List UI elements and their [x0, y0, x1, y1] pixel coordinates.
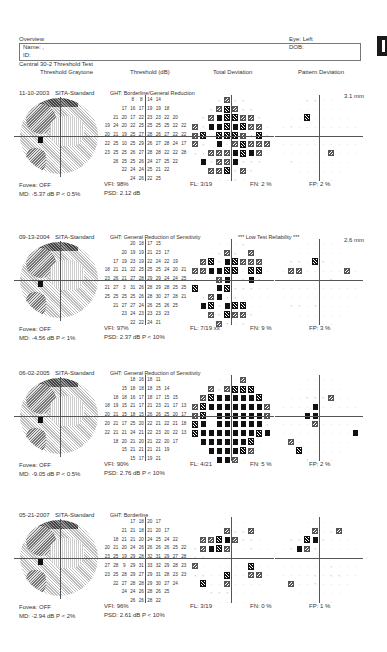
threshold-cell: 15 [163, 394, 172, 403]
probability-symbol-icon [335, 571, 343, 580]
empty-cell [295, 319, 303, 328]
probability-symbol-icon [223, 319, 231, 328]
probability-symbol-icon [303, 544, 311, 553]
threshold-cell [180, 597, 189, 606]
probability-symbol-icon [207, 166, 215, 175]
probability-symbol-icon [239, 302, 247, 311]
threshold-cell: 22 [154, 597, 163, 606]
probability-symbol-icon [287, 580, 295, 589]
probability-symbol-icon [343, 293, 351, 302]
probability-symbol-icon [319, 96, 327, 105]
empty-cell [191, 536, 199, 545]
probability-symbol-icon [239, 580, 247, 589]
patient-id: ID: [23, 52, 31, 59]
probability-symbol-icon [239, 293, 247, 302]
probability-symbol-icon [263, 544, 271, 553]
empty-cell [191, 385, 199, 394]
probability-symbol-icon [295, 420, 303, 429]
threshold-cell: 15 [154, 240, 163, 249]
probability-symbol-icon [239, 105, 247, 114]
threshold-cell: 22 [129, 319, 138, 328]
threshold-cell: 18 [103, 402, 112, 411]
threshold-cell: 21 [146, 249, 155, 258]
empty-cell [263, 446, 271, 455]
empty-cell [343, 588, 351, 597]
empty-cell [351, 302, 359, 311]
probability-symbol-icon [231, 455, 239, 464]
probability-symbol-icon [239, 266, 247, 275]
threshold-cell: 20 [120, 114, 129, 123]
threshold-cell [180, 455, 189, 464]
probability-symbol-icon [279, 122, 287, 131]
empty-cell [279, 249, 287, 258]
probability-symbol-icon [191, 284, 199, 293]
probability-symbol-icon [255, 544, 263, 553]
empty-cell [279, 527, 287, 536]
threshold-cell: 17 [163, 249, 172, 258]
probability-symbol-icon [319, 446, 327, 455]
probability-symbol-icon [247, 580, 255, 589]
empty-cell [191, 258, 199, 267]
threshold-cell: 21 [129, 446, 138, 455]
empty-cell [207, 562, 215, 571]
probability-symbol-icon [279, 140, 287, 149]
probability-symbol-icon [255, 258, 263, 267]
threshold-cell: 27 [103, 562, 112, 571]
probability-symbol-icon [295, 394, 303, 403]
empty-cell [263, 302, 271, 311]
probability-symbol-icon [215, 527, 223, 536]
probability-symbol-icon [287, 402, 295, 411]
probability-symbol-icon [247, 446, 255, 455]
threshold-cell: 22 [180, 544, 189, 553]
probability-symbol-icon [319, 166, 327, 175]
probability-symbol-icon [231, 302, 239, 311]
probability-symbol-icon [215, 258, 223, 267]
probability-symbol-icon [327, 249, 335, 258]
threshold-cell [180, 376, 189, 385]
threshold-cell: 22 [129, 266, 138, 275]
threshold-cell [112, 96, 121, 105]
empty-cell [263, 588, 271, 597]
probability-symbol-icon [223, 385, 231, 394]
threshold-cell [103, 527, 112, 536]
probability-symbol-icon [303, 140, 311, 149]
empty-cell [351, 518, 359, 527]
probability-symbol-icon [223, 580, 231, 589]
threshold-cell: 15 [129, 455, 138, 464]
threshold-cell: 20 [163, 438, 172, 447]
probability-symbol-icon [207, 310, 215, 319]
probability-symbol-icon [263, 149, 271, 158]
false-negatives: FN: 9 % [250, 325, 272, 332]
empty-cell [351, 376, 359, 385]
exam-date: 11-10-2003 [19, 90, 49, 97]
probability-symbol-icon [215, 580, 223, 589]
probability-symbol-icon [215, 166, 223, 175]
probability-symbol-icon [335, 385, 343, 394]
probability-symbol-icon [263, 140, 271, 149]
threshold-cell: 26 [112, 158, 121, 167]
threshold-cell: 19 [112, 402, 121, 411]
probability-symbol-icon [239, 240, 247, 249]
probability-symbol-icon [223, 446, 231, 455]
probability-symbol-icon [191, 571, 199, 580]
exam-date: 09-13-2004 [19, 234, 50, 241]
empty-cell [207, 376, 215, 385]
empty-cell [199, 588, 207, 597]
threshold-cell [112, 166, 121, 175]
probability-symbol-icon [231, 438, 239, 447]
probability-symbol-icon [343, 394, 351, 403]
empty-cell [295, 96, 303, 105]
probability-symbol-icon [327, 284, 335, 293]
false-negatives: FN: 2 % [250, 181, 272, 188]
probability-symbol-icon [255, 580, 263, 589]
mean-deviation: MD: -5.37 dB P < 0.5% [19, 191, 80, 198]
probability-symbol-icon [279, 429, 287, 438]
threshold-cell: 28 [146, 293, 155, 302]
threshold-cell [171, 455, 180, 464]
threshold-cell: 22 [180, 122, 189, 131]
threshold-cell: 28 [146, 588, 155, 597]
probability-symbol-icon [239, 249, 247, 258]
threshold-cell: 8 [129, 96, 138, 105]
threshold-cell: 28 [180, 149, 189, 158]
threshold-cell: 24 [129, 175, 138, 184]
